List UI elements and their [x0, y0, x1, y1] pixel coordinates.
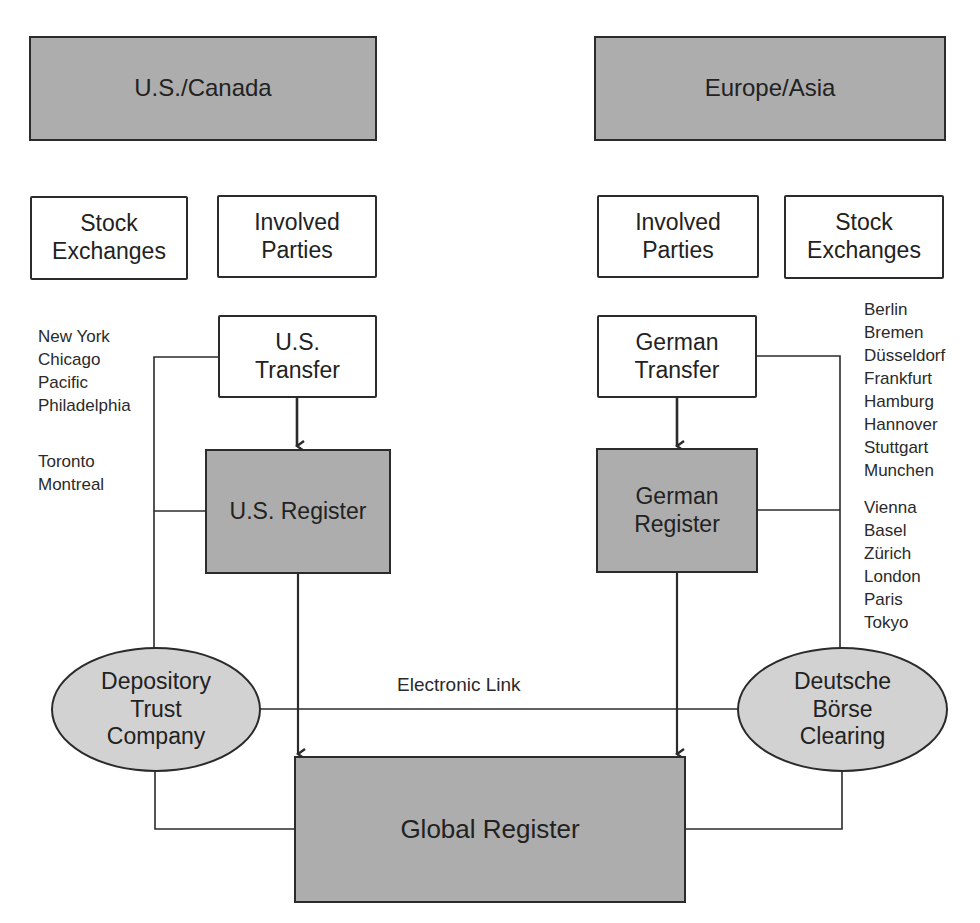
global-register-box: Global Register — [294, 756, 686, 903]
us-involved-parties-label: Involved Parties — [254, 209, 340, 264]
german-transfer-box: German Transfer — [597, 315, 757, 398]
city-item: Stuttgart — [864, 436, 945, 459]
region-us-canada-label: U.S./Canada — [134, 74, 271, 103]
deutsche-borse-clearing-node: Deutsche Börse Clearing — [737, 647, 948, 772]
us-exchange-cities-group2: Toronto Montreal — [38, 450, 104, 496]
city-item: Zürich — [864, 542, 921, 565]
us-involved-parties-box: Involved Parties — [217, 195, 377, 278]
city-item: Bremen — [864, 321, 945, 344]
city-item: Vienna — [864, 496, 921, 519]
city-item: Frankfurt — [864, 367, 945, 390]
region-us-canada: U.S./Canada — [29, 36, 377, 141]
us-transfer-box: U.S. Transfer — [218, 315, 377, 398]
electronic-link-label: Electronic Link — [397, 674, 521, 696]
german-register-label: German Register — [634, 483, 720, 538]
city-item: Tokyo — [864, 611, 921, 634]
city-item: Chicago — [38, 348, 131, 371]
eu-stock-exchanges-label: Stock Exchanges — [807, 209, 921, 264]
german-transfer-label: German Transfer — [635, 329, 720, 384]
city-item: Pacific — [38, 371, 131, 394]
german-register-box: German Register — [596, 448, 758, 573]
deutsche-borse-clearing-label: Deutsche Börse Clearing — [794, 668, 891, 751]
city-item: Basel — [864, 519, 921, 542]
global-register-label: Global Register — [400, 814, 579, 845]
city-item: Paris — [864, 588, 921, 611]
figure-caption-clipped — [32, 915, 232, 923]
region-europe-asia: Europe/Asia — [594, 36, 946, 141]
city-item: Philadelphia — [38, 394, 131, 417]
city-item: Düsseldorf — [864, 344, 945, 367]
city-item: New York — [38, 325, 131, 348]
city-item: Toronto — [38, 450, 104, 473]
city-item: Hannover — [864, 413, 945, 436]
city-item: London — [864, 565, 921, 588]
us-stock-exchanges-box: Stock Exchanges — [30, 196, 188, 280]
depository-trust-company-node: Depository Trust Company — [51, 647, 261, 772]
eu-involved-parties-box: Involved Parties — [597, 195, 759, 278]
city-item: Berlin — [864, 298, 945, 321]
eu-exchange-cities-group1: Berlin Bremen Düsseldorf Frankfurt Hambu… — [864, 298, 945, 482]
us-stock-exchanges-label: Stock Exchanges — [52, 210, 166, 265]
us-transfer-label: U.S. Transfer — [255, 329, 340, 384]
us-register-label: U.S. Register — [230, 498, 367, 526]
us-register-box: U.S. Register — [205, 449, 391, 574]
eu-involved-parties-label: Involved Parties — [635, 209, 721, 264]
city-item: Munchen — [864, 459, 945, 482]
eu-stock-exchanges-box: Stock Exchanges — [784, 195, 944, 279]
us-exchange-cities-group1: New York Chicago Pacific Philadelphia — [38, 325, 131, 417]
depository-trust-company-label: Depository Trust Company — [101, 668, 211, 751]
city-item: Hamburg — [864, 390, 945, 413]
region-europe-asia-label: Europe/Asia — [705, 74, 836, 103]
eu-exchange-cities-group2: Vienna Basel Zürich London Paris Tokyo — [864, 496, 921, 634]
city-item: Montreal — [38, 473, 104, 496]
